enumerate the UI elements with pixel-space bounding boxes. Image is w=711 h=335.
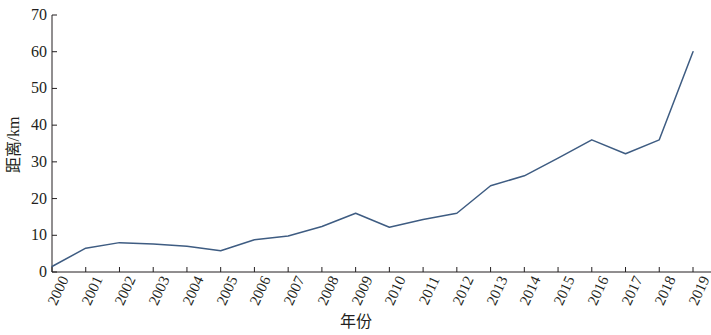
x-tick-label: 2005	[214, 274, 240, 308]
x-tick-label: 2019	[686, 274, 711, 308]
data-series-line	[52, 52, 693, 267]
x-axis-title-text: 年份	[340, 313, 372, 330]
x-tick-label: 2011	[417, 274, 443, 307]
x-tick-label: 2015	[551, 274, 577, 308]
x-tick-label: 2013	[484, 274, 510, 308]
x-tick-label: 2009	[349, 274, 375, 308]
axis-tick-marks	[52, 15, 693, 272]
x-tick-label: 2004	[180, 274, 206, 308]
line-chart-figure: 距离/km 010203040506070 200020012002200320…	[0, 0, 711, 335]
x-tick-label: 2010	[383, 274, 409, 308]
x-tick-label: 2006	[248, 274, 274, 308]
x-tick-label: 2018	[653, 274, 679, 308]
x-tick-label: 2001	[79, 274, 105, 308]
x-tick-label: 2017	[619, 274, 645, 308]
x-axis-title: 年份	[0, 312, 711, 331]
x-tick-label: 2003	[147, 274, 173, 308]
x-tick-label: 2012	[450, 274, 476, 308]
axis-lines	[52, 15, 711, 272]
x-tick-label: 2002	[113, 274, 139, 308]
x-tick-label: 2008	[315, 274, 341, 308]
x-tick-label: 2000	[45, 274, 71, 308]
x-tick-label: 2016	[585, 274, 611, 308]
x-tick-label: 2014	[518, 274, 544, 308]
x-tick-label: 2007	[281, 274, 307, 308]
